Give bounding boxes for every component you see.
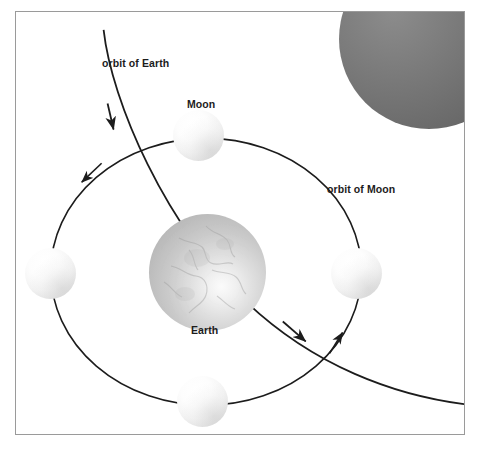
arrow-moon-orbit-left-icon: [82, 163, 102, 182]
label-orbit-of-moon: orbit of Moon: [327, 184, 395, 195]
arrow-earth-orbit-upper-icon: [108, 104, 114, 130]
diagram-canvas: orbit of Earth orbit of Moon Moon Earth: [0, 0, 483, 461]
earth-sphere: [149, 214, 266, 331]
diagram-frame: orbit of Earth orbit of Moon Moon Earth: [15, 11, 465, 435]
orbit-of-earth-path: [104, 30, 464, 404]
arrow-moon-orbit-right-icon: [330, 332, 343, 353]
moon-sphere-bottom: [177, 376, 228, 427]
earth-continents-svg: [149, 214, 266, 331]
label-earth: Earth: [191, 325, 218, 336]
label-orbit-of-earth: orbit of Earth: [102, 58, 169, 69]
moon-sphere-left: [25, 248, 76, 299]
moon-sphere-right: [331, 248, 382, 299]
label-moon: Moon: [187, 99, 215, 110]
earth-continents-texture: [149, 214, 266, 331]
moon-sphere-top: [173, 110, 224, 161]
arrow-earth-orbit-lower-icon: [283, 322, 306, 342]
